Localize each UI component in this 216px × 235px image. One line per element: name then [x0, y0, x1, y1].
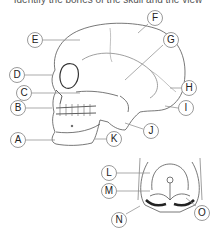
label-d: D — [9, 67, 25, 83]
label-n: N — [111, 212, 127, 228]
label-o: O — [194, 205, 210, 221]
label-b: B — [10, 100, 26, 116]
label-f: F — [147, 10, 163, 26]
label-e: E — [27, 32, 43, 48]
label-g: G — [163, 32, 179, 48]
label-h: H — [181, 80, 197, 96]
label-m: M — [101, 183, 117, 199]
label-j: J — [143, 123, 159, 139]
label-l: L — [101, 165, 117, 181]
label-c: C — [16, 85, 32, 101]
label-a: A — [10, 132, 26, 148]
label-i: I — [178, 100, 194, 116]
orbit — [60, 64, 78, 89]
label-k: K — [106, 131, 122, 147]
